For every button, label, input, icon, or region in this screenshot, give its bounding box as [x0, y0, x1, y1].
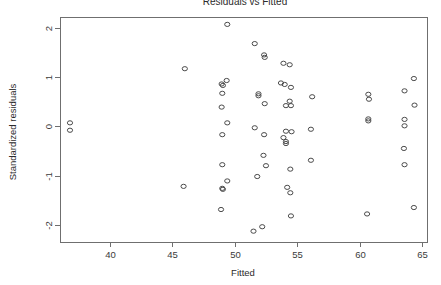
- data-point: [219, 105, 224, 109]
- chart-title-group: Residuals vs Fitted: [203, 0, 287, 7]
- data-point: [308, 158, 313, 162]
- data-point: [402, 89, 407, 93]
- data-point: [288, 214, 293, 218]
- data-point: [364, 212, 369, 216]
- x-tick-label: 60: [355, 249, 366, 260]
- data-point: [260, 225, 265, 229]
- data-point: [308, 127, 313, 131]
- data-point: [402, 124, 407, 128]
- x-tick-label: 65: [417, 249, 428, 260]
- data-point: [181, 184, 186, 188]
- data-point: [262, 133, 267, 137]
- x-tick-label: 50: [230, 249, 241, 260]
- x-axis-title: Fitted: [231, 267, 255, 278]
- data-point: [262, 102, 267, 106]
- data-point: [283, 129, 288, 133]
- x-tick-label: 45: [167, 249, 178, 260]
- y-tick-label: -1: [43, 172, 54, 180]
- data-point: [251, 229, 256, 233]
- data-point: [261, 153, 266, 157]
- data-point: [310, 95, 315, 99]
- data-point: [401, 146, 406, 150]
- data-point: [288, 104, 293, 108]
- x-tick-label: 55: [292, 249, 303, 260]
- residual-plot-figure: Residuals vs Fitted 404550556065 210-1-2…: [0, 0, 441, 285]
- data-point: [182, 67, 187, 71]
- chart-title: Residuals vs Fitted: [203, 0, 287, 7]
- data-point: [220, 91, 225, 95]
- y-tick-label: -2: [43, 221, 54, 229]
- data-point: [287, 99, 292, 103]
- data-point: [252, 126, 257, 130]
- data-point: [263, 164, 268, 168]
- y-tick-label: 0: [43, 124, 54, 129]
- data-point: [288, 85, 293, 89]
- plot-box: [61, 18, 428, 243]
- data-points-group: [67, 22, 417, 233]
- plot-canvas: Residuals vs Fitted 404550556065 210-1-2…: [0, 0, 441, 285]
- data-point: [411, 205, 416, 209]
- x-axis-ticks: 404550556065: [105, 242, 428, 260]
- data-point: [67, 121, 72, 125]
- y-axis-title: Standardized residuals: [7, 83, 18, 180]
- data-point: [283, 104, 288, 108]
- data-point: [225, 179, 230, 183]
- data-point: [224, 78, 229, 82]
- data-point: [220, 163, 225, 167]
- y-tick-label: 2: [43, 26, 54, 31]
- y-tick-label: 1: [43, 75, 54, 80]
- data-point: [288, 191, 293, 195]
- data-point: [366, 97, 371, 101]
- data-point: [411, 76, 416, 80]
- data-point: [289, 130, 294, 134]
- y-axis-ticks: 210-1-2: [43, 26, 61, 230]
- data-point: [281, 61, 286, 65]
- data-point: [252, 41, 257, 45]
- data-point: [288, 167, 293, 171]
- data-point: [255, 174, 260, 178]
- data-point: [402, 117, 407, 121]
- data-point: [220, 133, 225, 137]
- data-point: [287, 63, 292, 67]
- data-point: [67, 128, 72, 132]
- data-point: [218, 207, 223, 211]
- data-point: [225, 22, 230, 26]
- data-point: [402, 163, 407, 167]
- data-point: [285, 185, 290, 189]
- plot-frame: [61, 18, 428, 243]
- x-tick-label: 40: [105, 249, 116, 260]
- data-point: [366, 92, 371, 96]
- data-point: [225, 121, 230, 125]
- data-point: [412, 103, 417, 107]
